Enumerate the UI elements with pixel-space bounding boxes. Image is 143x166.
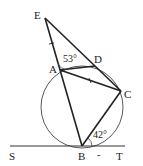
label-b: B — [78, 150, 85, 162]
angle-arc-b — [88, 138, 92, 146]
label-a: A — [49, 63, 57, 75]
segment-ec — [45, 18, 121, 91]
segment-eb — [45, 18, 82, 146]
angle-label-53: 53° — [63, 53, 77, 64]
segment-ac — [60, 70, 121, 91]
label-s: S — [9, 150, 15, 162]
label-c: C — [124, 88, 131, 100]
label-e: E — [34, 9, 41, 21]
label-t: T — [116, 150, 123, 162]
angle-label-42: 42° — [93, 129, 107, 140]
minus-mark: - — [97, 149, 100, 160]
label-d: D — [94, 53, 102, 65]
geometry-diagram: E A D C B S T 53° 42° - — [0, 0, 143, 166]
